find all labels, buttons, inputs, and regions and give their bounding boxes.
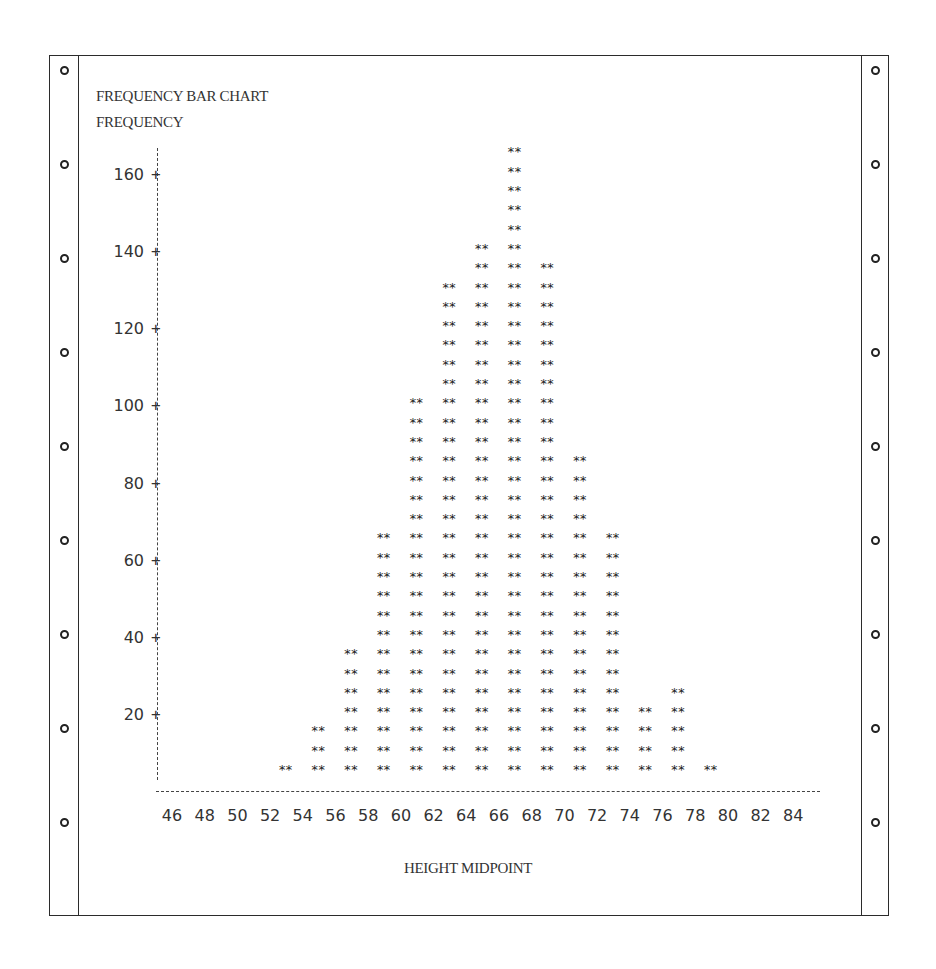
bar-marker: ** bbox=[403, 589, 429, 602]
bar-marker: ** bbox=[501, 338, 527, 351]
bar-marker: ** bbox=[501, 454, 527, 467]
bar-marker: ** bbox=[370, 705, 396, 718]
bar-marker: ** bbox=[403, 531, 429, 544]
y-tick-mark: + bbox=[151, 628, 161, 647]
bar-marker: ** bbox=[599, 647, 625, 660]
bar-marker: ** bbox=[534, 570, 560, 583]
bar-marker: ** bbox=[370, 551, 396, 564]
bar-marker: ** bbox=[501, 609, 527, 622]
bar-marker: ** bbox=[534, 705, 560, 718]
bar-marker: ** bbox=[468, 686, 494, 699]
bar-marker: ** bbox=[501, 493, 527, 506]
bar-marker: ** bbox=[566, 628, 592, 641]
bar-marker: ** bbox=[534, 724, 560, 737]
bar-marker: ** bbox=[534, 416, 560, 429]
bar-marker: ** bbox=[501, 300, 527, 313]
left-feed-hole-icon bbox=[60, 536, 69, 545]
bar-marker: ** bbox=[468, 416, 494, 429]
bar-marker: ** bbox=[468, 377, 494, 390]
bar-marker: ** bbox=[599, 570, 625, 583]
bar-marker: ** bbox=[664, 724, 690, 737]
bar-marker: ** bbox=[468, 454, 494, 467]
bar-marker: ** bbox=[501, 203, 527, 216]
bar-marker: ** bbox=[436, 512, 462, 525]
bar-marker: ** bbox=[599, 724, 625, 737]
bar-marker: ** bbox=[534, 474, 560, 487]
bar-marker: ** bbox=[337, 647, 363, 660]
chart-title: FREQUENCY BAR CHART bbox=[96, 88, 268, 105]
y-tick-mark: + bbox=[151, 319, 161, 338]
x-tick-label: 76 bbox=[648, 806, 678, 825]
left-feed-hole-icon bbox=[60, 442, 69, 451]
right-feed-hole-icon bbox=[871, 818, 880, 827]
bar-marker: ** bbox=[534, 551, 560, 564]
bar-marker: ** bbox=[403, 551, 429, 564]
bar-marker: ** bbox=[697, 763, 723, 776]
bar-marker: ** bbox=[566, 551, 592, 564]
bar-marker: ** bbox=[599, 531, 625, 544]
y-tick-mark: + bbox=[151, 396, 161, 415]
bar-marker: ** bbox=[501, 223, 527, 236]
bar-marker: ** bbox=[337, 724, 363, 737]
bar-marker: ** bbox=[370, 724, 396, 737]
bar-marker: ** bbox=[436, 609, 462, 622]
bar-marker: ** bbox=[566, 454, 592, 467]
bar-marker: ** bbox=[664, 744, 690, 757]
x-tick-label: 46 bbox=[157, 806, 187, 825]
bar-marker: ** bbox=[632, 763, 658, 776]
bar-marker: ** bbox=[403, 474, 429, 487]
y-tick-mark: + bbox=[151, 242, 161, 261]
bar-marker: ** bbox=[501, 531, 527, 544]
left-feed-hole-icon bbox=[60, 724, 69, 733]
bar-marker: ** bbox=[370, 647, 396, 660]
bar-marker: ** bbox=[534, 358, 560, 371]
bar-marker: ** bbox=[501, 435, 527, 448]
bar-marker: ** bbox=[501, 319, 527, 332]
x-tick-label: 48 bbox=[190, 806, 220, 825]
right-feed-hole-icon bbox=[871, 536, 880, 545]
right-feed-hole-icon bbox=[871, 724, 880, 733]
bar-marker: ** bbox=[501, 474, 527, 487]
y-tick-label: 80 bbox=[96, 474, 144, 493]
x-tick-label: 68 bbox=[517, 806, 547, 825]
bar-marker: ** bbox=[534, 609, 560, 622]
bar-marker: ** bbox=[305, 724, 331, 737]
bar-marker: ** bbox=[436, 763, 462, 776]
bar-marker: ** bbox=[305, 763, 331, 776]
bar-marker: ** bbox=[403, 647, 429, 660]
x-tick-label: 74 bbox=[615, 806, 645, 825]
bar-marker: ** bbox=[468, 242, 494, 255]
bar-marker: ** bbox=[566, 609, 592, 622]
bar-marker: ** bbox=[436, 493, 462, 506]
bar-marker: ** bbox=[436, 338, 462, 351]
y-tick-label: 120 bbox=[96, 319, 144, 338]
bar-marker: ** bbox=[599, 551, 625, 564]
y-tick-mark: + bbox=[151, 705, 161, 724]
bar-marker: ** bbox=[534, 338, 560, 351]
bar-marker: ** bbox=[272, 763, 298, 776]
bar-marker: ** bbox=[436, 724, 462, 737]
bar-marker: ** bbox=[337, 667, 363, 680]
x-tick-label: 84 bbox=[778, 806, 808, 825]
bar-marker: ** bbox=[501, 551, 527, 564]
bar-marker: ** bbox=[566, 744, 592, 757]
left-tractor-strip-edge bbox=[78, 55, 79, 916]
bar-marker: ** bbox=[566, 705, 592, 718]
x-tick-label: 60 bbox=[386, 806, 416, 825]
x-tick-label: 56 bbox=[321, 806, 351, 825]
bar-marker: ** bbox=[664, 705, 690, 718]
bar-marker: ** bbox=[403, 396, 429, 409]
x-tick-label: 58 bbox=[353, 806, 383, 825]
bar-marker: ** bbox=[534, 628, 560, 641]
bar-marker: ** bbox=[599, 705, 625, 718]
bar-marker: ** bbox=[468, 474, 494, 487]
right-tractor-strip-edge bbox=[861, 55, 862, 916]
bar-marker: ** bbox=[436, 705, 462, 718]
bar-marker: ** bbox=[501, 763, 527, 776]
bar-marker: ** bbox=[534, 377, 560, 390]
right-feed-hole-icon bbox=[871, 254, 880, 263]
bar-marker: ** bbox=[436, 435, 462, 448]
bar-marker: ** bbox=[370, 531, 396, 544]
bar-marker: ** bbox=[599, 628, 625, 641]
bar-marker: ** bbox=[403, 744, 429, 757]
